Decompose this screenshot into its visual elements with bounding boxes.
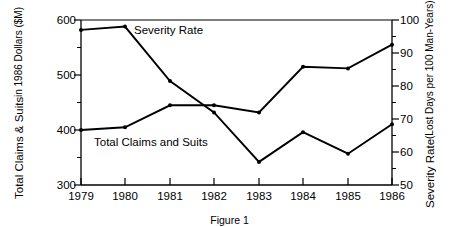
figure-1-chart: Total Claims & Suits in 1986 Dollars ($M… [0, 0, 459, 227]
series-label-total-claims-and-suits: Total Claims and Suits [94, 136, 208, 148]
x-axis-ticks [81, 178, 392, 185]
series-line-total-claims-and-suits [81, 45, 392, 130]
series-markers-total-claims-and-suits [79, 43, 394, 132]
series-label-severity-rate: Severity Rate [134, 24, 203, 36]
figure-caption: Figure 1 [0, 214, 459, 227]
plot-area [0, 0, 459, 227]
